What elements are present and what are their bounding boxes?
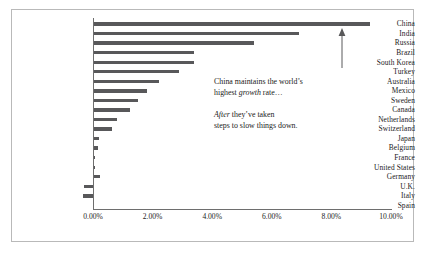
bar — [93, 51, 194, 54]
category-label: Brazil — [339, 49, 415, 56]
bar — [93, 61, 194, 64]
category-label: South Korea — [339, 59, 415, 66]
category-label: Turkey — [339, 68, 415, 75]
category-label: U.K. — [339, 183, 415, 190]
annotation-emphasis: growth — [239, 88, 261, 97]
x-tick-label: 2.00% — [143, 213, 163, 221]
x-tick-label: 8.00% — [322, 213, 342, 221]
category-label: United States — [339, 164, 415, 171]
bar — [93, 70, 179, 73]
annotation-slowdown: After they’ve taken steps to slow things… — [214, 110, 298, 131]
category-label: Italy — [339, 192, 415, 199]
bar — [93, 108, 130, 111]
annotation-line: steps to slow things down. — [214, 121, 298, 130]
annotation-line: rate… — [261, 88, 283, 97]
category-label: Mexico — [339, 87, 415, 94]
category-label: Sweden — [339, 97, 415, 104]
bar — [93, 127, 112, 130]
category-label: Australia — [339, 78, 415, 85]
bar — [93, 32, 299, 35]
bar — [83, 194, 93, 197]
bar-chart: ChinaIndiaRussiaBrazilSouth KoreaTurkeyA… — [12, 10, 415, 243]
category-label: Spain — [339, 202, 415, 209]
category-label: India — [339, 30, 415, 37]
bar — [93, 41, 254, 44]
category-label: Germany — [339, 173, 415, 180]
annotation-line: China maintains the world’s — [214, 77, 303, 86]
category-label: France — [339, 154, 415, 161]
category-label: Netherlands — [339, 116, 415, 123]
bar — [93, 118, 117, 121]
bar — [93, 80, 159, 83]
x-tick-label: 6.00% — [262, 213, 282, 221]
chart-frame: ChinaIndiaRussiaBrazilSouth KoreaTurkeyA… — [11, 9, 414, 242]
annotation-line: they’ve taken — [230, 110, 275, 119]
category-label: Russia — [339, 39, 415, 46]
x-tick-label: 0.00% — [83, 213, 103, 221]
bar — [93, 22, 370, 25]
category-label: Canada — [339, 106, 415, 113]
annotation-line: highest — [214, 88, 239, 97]
x-tick-label: 10.00% — [379, 213, 402, 221]
annotation-growth-rate: China maintains the world’s highest grow… — [214, 77, 303, 98]
bar — [93, 89, 147, 92]
category-axis-line — [93, 209, 392, 210]
category-label: Switzerland — [339, 125, 415, 132]
callout-arrow-icon — [336, 28, 348, 68]
value-axis-baseline — [93, 18, 94, 209]
x-tick-label: 4.00% — [202, 213, 222, 221]
category-label: Japan — [339, 135, 415, 142]
category-label: Belgium — [339, 144, 415, 151]
bar — [93, 99, 138, 102]
annotation-emphasis: After — [214, 110, 230, 119]
bar — [84, 185, 93, 188]
